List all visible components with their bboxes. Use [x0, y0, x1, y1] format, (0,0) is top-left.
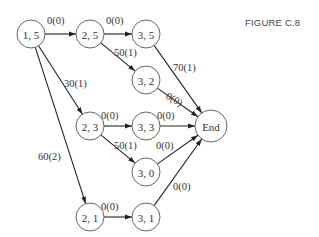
node-n31: 3, 1 [132, 203, 160, 231]
node-label: 1, 5 [23, 29, 40, 41]
node-n25: 2, 5 [76, 20, 104, 48]
edge-label: 60(2) [38, 151, 61, 163]
node-label: 3, 5 [138, 29, 155, 41]
node-n23: 2, 3 [76, 112, 104, 140]
node-n33: 3, 3 [132, 112, 160, 140]
edge-label: 0(0) [164, 90, 186, 109]
node-n35: 3, 5 [132, 20, 160, 48]
edge-label: 50(1) [114, 140, 137, 152]
edge-label: 0(0) [156, 140, 174, 152]
node-label: 3, 0 [138, 167, 155, 179]
node-n15: 1, 5 [17, 20, 45, 48]
node-label: 2, 1 [82, 212, 99, 224]
node-label: 3, 1 [138, 212, 155, 224]
node-n30: 3, 0 [132, 158, 160, 186]
node-label: 3, 3 [138, 121, 155, 133]
network-diagram: 0(0)0(0)50(1)30(1)60(2)70(1)0(0)0(0)0(0)… [0, 0, 319, 237]
edge-label: 0(0) [101, 201, 119, 213]
node-end: End [195, 110, 227, 142]
edge-label: 0(0) [47, 15, 65, 27]
node-n32: 3, 2 [132, 66, 160, 94]
node-label: 3, 2 [138, 75, 155, 87]
edge-label: 0(0) [157, 110, 175, 122]
edge-label: 70(1) [173, 62, 196, 74]
node-label: 2, 3 [82, 121, 99, 133]
node-label: 2, 5 [82, 29, 99, 41]
edge-label: 0(0) [106, 15, 124, 27]
edge-label: 30(1) [64, 78, 87, 90]
node-label: End [202, 121, 220, 133]
edge-label: 50(1) [114, 47, 137, 59]
edge-label: 0(0) [101, 110, 119, 122]
edge-label: 0(0) [173, 181, 191, 193]
node-n21: 2, 1 [76, 203, 104, 231]
edge-labels-layer: 0(0)0(0)50(1)30(1)60(2)70(1)0(0)0(0)0(0)… [38, 15, 196, 213]
